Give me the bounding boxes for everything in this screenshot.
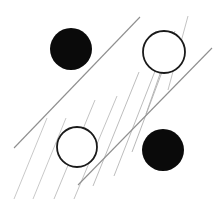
abstract-figure-svg bbox=[0, 0, 221, 199]
circle-top-left bbox=[50, 28, 92, 70]
figure-canvas bbox=[0, 0, 221, 199]
circle-bottom-left bbox=[57, 127, 97, 167]
figure-background bbox=[0, 0, 221, 199]
circle-top-right bbox=[143, 31, 185, 73]
circle-bottom-right bbox=[142, 129, 184, 171]
